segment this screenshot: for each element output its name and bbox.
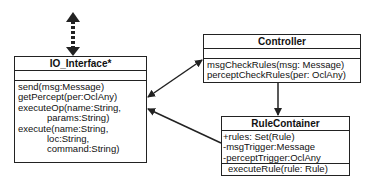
methods-section: executeRule(rule: Rule) bbox=[222, 164, 349, 174]
method: perceptCheckRules(per: OclAny) bbox=[204, 70, 360, 80]
class-controller: Controller msgCheckRules(msg: Message) p… bbox=[203, 34, 361, 83]
attributes-section bbox=[204, 49, 360, 59]
class-title: Controller bbox=[204, 35, 360, 49]
external-io-dashed-arrow bbox=[66, 12, 80, 56]
class-io-interface: IO_Interface* send(msg:Message) getPerce… bbox=[14, 56, 147, 163]
attribute: -perceptTrigger:OclAny bbox=[222, 153, 349, 163]
rulecontainer-io-arrow bbox=[148, 109, 221, 143]
class-title: RuleContainer bbox=[222, 117, 349, 131]
methods-section: send(msg:Message) getPercept(per:OclAny)… bbox=[15, 81, 146, 155]
attributes-section bbox=[15, 71, 146, 81]
class-title: IO_Interface* bbox=[15, 57, 146, 71]
class-rule-container: RuleContainer +rules: Set(Rule) -msgTrig… bbox=[221, 116, 350, 176]
method: executeRule(rule: Rule) bbox=[222, 164, 349, 174]
methods-section: msgCheckRules(msg: Message) perceptCheck… bbox=[204, 59, 360, 81]
attributes-section: +rules: Set(Rule) -msgTrigger:Message -p… bbox=[222, 131, 349, 164]
method-continuation: command:String) bbox=[15, 144, 146, 154]
io-controller-association-arrow bbox=[148, 60, 202, 97]
